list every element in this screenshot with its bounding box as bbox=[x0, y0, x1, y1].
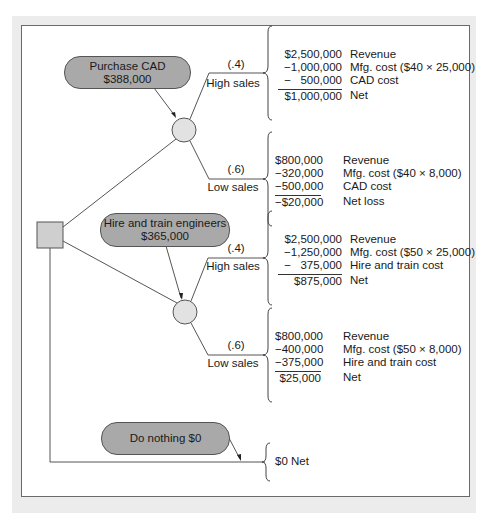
payoff-block: $2,500,000Revenue −1,250,000Mfg. cost ($… bbox=[278, 233, 475, 287]
decision-node-square bbox=[37, 222, 63, 248]
payoff-desc: Hire and train cost bbox=[350, 259, 443, 272]
payoff-block: $800,000Revenue −320,000Mfg. cost ($40 ×… bbox=[275, 154, 462, 208]
payoff-amount: $2,500,000 bbox=[278, 48, 342, 61]
payoff-desc: Mfg. cost ($50 × 25,000) bbox=[350, 246, 475, 259]
payoff-net-desc: Net bbox=[350, 89, 368, 102]
payoff-desc: Mfg. cost ($40 × 8,000) bbox=[343, 167, 462, 180]
probability-label: (.6) bbox=[206, 339, 266, 351]
payoff-net-amount: $1,000,000 bbox=[278, 89, 342, 102]
payoff-amount: −1,000,000 bbox=[278, 61, 342, 74]
arrow-head-icon bbox=[171, 112, 176, 118]
payoff-net-desc: $0 Net bbox=[275, 455, 309, 467]
payoff-desc: Mfg. cost ($40 × 25,000) bbox=[350, 61, 475, 74]
payoff-net-amount: −$20,000 bbox=[275, 195, 321, 208]
payoff-net-desc: Net bbox=[350, 274, 368, 287]
payoff-net-amount: $25,000 bbox=[275, 371, 321, 384]
payoff-amount: −1,250,000 bbox=[278, 246, 342, 259]
brace-3 bbox=[263, 211, 272, 305]
payoff-desc: Revenue bbox=[343, 330, 389, 343]
payoff-desc: Revenue bbox=[350, 48, 396, 61]
probability-label: (.4) bbox=[206, 242, 266, 254]
probability-label: (.6) bbox=[206, 163, 266, 175]
payoff-desc: CAD cost bbox=[343, 180, 392, 193]
alternative-do-nothing: Do nothing $0 bbox=[101, 422, 230, 455]
payoff-amount: −375,000 bbox=[275, 356, 321, 369]
payoff-net-desc: Net loss bbox=[343, 195, 385, 208]
alternative-name: Do nothing $0 bbox=[102, 432, 229, 445]
alternative-purchase-cad: Purchase CAD $388,000 bbox=[64, 56, 191, 89]
brace-2 bbox=[263, 132, 272, 226]
payoff-net-desc: Net bbox=[343, 371, 361, 384]
payoff-amount: − 500,000 bbox=[278, 74, 342, 87]
payoff-net-amount: $875,000 bbox=[278, 274, 342, 287]
payoff-amount: $800,000 bbox=[275, 154, 321, 167]
payoff-amount: $2,500,000 bbox=[278, 233, 342, 246]
payoff-do-nothing: $0 Net bbox=[275, 455, 309, 468]
brace-5 bbox=[262, 443, 270, 481]
alternative-name: Hire and train engineers bbox=[101, 217, 229, 230]
probability-label: (.4) bbox=[206, 58, 266, 70]
payoff-desc: Hire and train cost bbox=[343, 356, 436, 369]
branch-label: Low sales bbox=[198, 357, 268, 369]
payoff-block: $2,500,000Revenue −1,000,000Mfg. cost ($… bbox=[278, 48, 475, 102]
brace-1 bbox=[263, 26, 272, 120]
payoff-desc: Revenue bbox=[350, 233, 396, 246]
payoff-desc: Revenue bbox=[343, 154, 389, 167]
chance-node-2 bbox=[173, 300, 197, 324]
payoff-amount: −320,000 bbox=[275, 167, 321, 180]
payoff-amount: $800,000 bbox=[275, 330, 321, 343]
chance-node-1 bbox=[172, 118, 196, 142]
payoff-desc: Mfg. cost ($50 × 8,000) bbox=[343, 343, 462, 356]
brace-4 bbox=[263, 308, 272, 402]
payoff-block: $800,000Revenue −400,000Mfg. cost ($50 ×… bbox=[275, 330, 462, 384]
payoff-amount: −400,000 bbox=[275, 343, 321, 356]
branch-label: Low sales bbox=[198, 181, 268, 193]
payoff-amount: −500,000 bbox=[275, 180, 321, 193]
branch-label: High sales bbox=[198, 77, 268, 89]
payoff-amount: − 375,000 bbox=[278, 259, 342, 272]
payoff-desc: CAD cost bbox=[350, 74, 399, 87]
alternative-value: $388,000 bbox=[65, 73, 190, 86]
branch-label: High sales bbox=[198, 260, 268, 272]
alternative-name: Purchase CAD bbox=[65, 60, 190, 73]
